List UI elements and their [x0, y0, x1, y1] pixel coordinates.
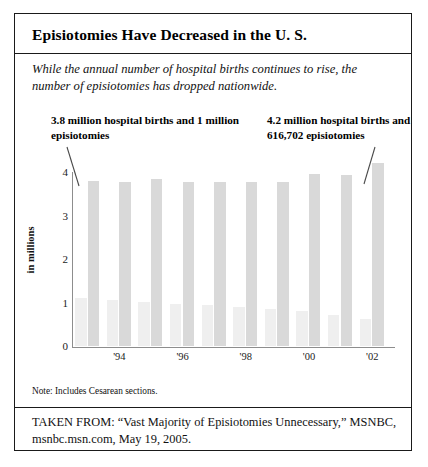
bar-births-2000 [309, 174, 320, 346]
y-tick-3: 3 [54, 210, 68, 222]
bar-births-1994 [119, 182, 130, 346]
bar-births-2002 [372, 163, 383, 346]
x-tick-96: '96 [176, 351, 188, 362]
bar-births-1995 [151, 179, 162, 346]
bar-births-1997 [214, 182, 225, 346]
y-tick-0: 0 [54, 340, 68, 352]
bar-episiotomies-1999 [265, 309, 276, 346]
y-tick-4: 4 [54, 166, 68, 178]
bar-births-1993 [88, 181, 99, 346]
bar-episiotomies-1993 [75, 298, 86, 346]
bar-episiotomies-1997 [202, 305, 213, 346]
figure-frame: Episiotomies Have Decreased in the U. S.… [14, 13, 412, 451]
x-tick-00: '00 [303, 351, 315, 362]
annotation-right: 4.2 million hospital births and 616,702 … [267, 113, 428, 143]
chart-note: Note: Includes Cesarean sections. [32, 386, 157, 396]
bar-births-1999 [277, 182, 288, 346]
bar-episiotomies-2001 [328, 315, 339, 346]
annotation-left: 3.8 million hospital births and 1 millio… [51, 113, 241, 143]
bar-births-2001 [341, 175, 352, 346]
x-tick-02: '02 [366, 351, 378, 362]
plot-area [72, 172, 388, 346]
x-tick-98: '98 [240, 351, 252, 362]
source-citation: TAKEN FROM: “Vast Majority of Episiotomi… [32, 414, 400, 448]
bar-episiotomies-2000 [296, 311, 307, 346]
bar-chart: in millions 01234 '94'96'98'00'02 [32, 154, 397, 379]
figure-title: Episiotomies Have Decreased in the U. S. [32, 26, 392, 44]
x-axis-line [72, 347, 395, 348]
bar-episiotomies-2002 [360, 319, 371, 346]
bar-births-1996 [183, 182, 194, 346]
figure-subtitle: While the annual number of hospital birt… [32, 61, 384, 95]
bar-episiotomies-1996 [170, 304, 181, 346]
title-divider [15, 53, 411, 54]
y-tick-1: 1 [54, 297, 68, 309]
bar-episiotomies-1994 [107, 300, 118, 346]
bar-episiotomies-1995 [138, 302, 149, 346]
y-tick-2: 2 [54, 253, 68, 265]
bar-episiotomies-1998 [233, 307, 244, 346]
footer-divider [15, 407, 411, 408]
x-tick-94: '94 [113, 351, 125, 362]
y-axis-title: in millions [25, 227, 36, 274]
bar-births-1998 [246, 182, 257, 346]
